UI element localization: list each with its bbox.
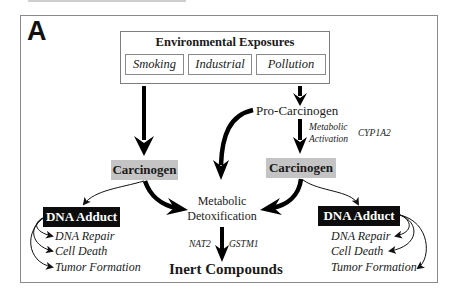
metabolic-activation-line1: Metabolic <box>309 123 348 133</box>
arrow-right-carcinogen-to-adduct <box>303 180 358 204</box>
gene-nat2: NAT2 <box>189 240 211 250</box>
right-outcome-dna-repair: DNA Repair <box>331 230 390 242</box>
metabolic-activation-line2: Activation <box>309 135 348 145</box>
gene-gstm1: GSTM1 <box>229 240 259 250</box>
pro-carcinogen-label: Pro-Carcinogen <box>256 104 338 117</box>
arrow-procarcinogen-to-detoxification <box>213 110 253 180</box>
arrow-left-carcinogen-to-detoxification <box>145 181 188 215</box>
arrow-left-carcinogen-to-adduct <box>84 181 144 204</box>
inert-compounds-label: Inert Compounds <box>169 262 283 277</box>
carcinogen-right: Carcinogen <box>266 158 336 178</box>
arrow-exposure-to-carcinogen-left <box>134 86 154 156</box>
detoxification-line1: Metabolic <box>192 195 252 207</box>
left-outcome-cell-death: Cell Death <box>55 245 107 257</box>
arrow-detoxification-to-inert <box>215 227 229 262</box>
gene-cyp1a2: CYP1A2 <box>358 129 391 139</box>
right-outcome-tumor-formation: Tumor Formation <box>331 261 417 273</box>
dna-adduct-left: DNA Adduct <box>43 207 120 227</box>
arrow-metabolic-activation <box>293 119 307 154</box>
carcinogen-left: Carcinogen <box>111 160 178 180</box>
detoxification-line2: Detoxification <box>185 210 259 222</box>
left-outcome-tumor-formation: Tumor Formation <box>55 261 141 273</box>
right-outcome-cell-death: Cell Death <box>331 245 383 257</box>
left-outcome-dna-repair: DNA Repair <box>55 230 114 242</box>
dna-adduct-right: DNA Adduct <box>318 206 400 226</box>
arrow-right-carcinogen-to-detoxification <box>260 179 301 215</box>
